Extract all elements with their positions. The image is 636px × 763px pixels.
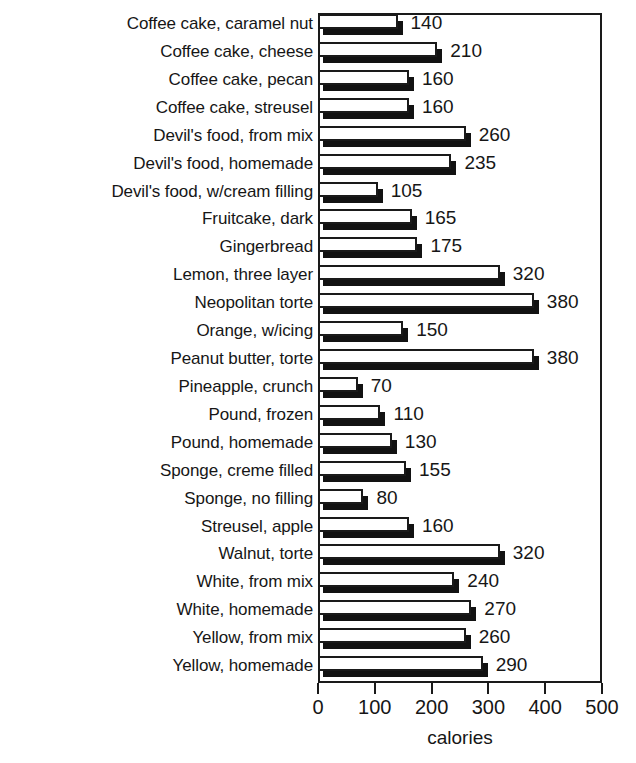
bar [318, 293, 534, 308]
bar-row: 175 [318, 237, 497, 259]
category-label: Sponge, no filling [0, 489, 313, 508]
bar-row: 160 [318, 70, 489, 92]
bar [318, 126, 466, 141]
category-label: Pound, homemade [0, 433, 313, 452]
category-label: Coffee cake, pecan [0, 70, 313, 89]
bar-value-label: 80 [376, 487, 397, 509]
category-label: Pound, frozen [0, 405, 313, 424]
bar-row: 110 [318, 405, 460, 427]
bar-row: 270 [318, 600, 551, 622]
bar-row: 380 [318, 349, 614, 371]
bar-row: 80 [318, 489, 443, 511]
bar-row: 150 [318, 321, 483, 343]
x-axis-tick-label: 300 [472, 695, 505, 719]
category-label: Lemon, three layer [0, 265, 313, 284]
category-label: Devil's food, from mix [0, 126, 313, 145]
bar-value-label: 290 [496, 654, 528, 676]
category-axis-labels: Coffee cake, caramel nutCoffee cake, che… [0, 13, 313, 683]
bar-value-label: 260 [479, 124, 511, 146]
bar [318, 628, 466, 643]
bar-row: 140 [318, 14, 478, 36]
bar-chart: Coffee cake, caramel nutCoffee cake, che… [0, 0, 636, 763]
x-axis: 0100200300400500 [318, 683, 608, 763]
bar [318, 182, 378, 197]
bar-value-label: 110 [393, 403, 423, 425]
category-label: Fruitcake, dark [0, 209, 313, 228]
bar-value-label: 260 [479, 626, 511, 648]
x-axis-tick-label: 500 [585, 695, 618, 719]
bar [318, 70, 409, 85]
bar-row: 260 [318, 126, 546, 148]
bar-value-label: 160 [422, 96, 454, 118]
category-label: White, homemade [0, 600, 313, 619]
bar [318, 14, 398, 29]
bar-value-label: 380 [547, 291, 579, 313]
bar [318, 42, 437, 57]
bar-value-label: 235 [464, 152, 496, 174]
category-label: Coffee cake, cheese [0, 42, 313, 61]
bar [318, 544, 500, 559]
category-label: Gingerbread [0, 237, 313, 256]
bar [318, 600, 471, 615]
bar-value-label: 240 [467, 570, 499, 592]
bar-value-label: 70 [371, 375, 392, 397]
category-label: Coffee cake, caramel nut [0, 14, 313, 33]
bar [318, 572, 454, 587]
category-label: Yellow, from mix [0, 628, 313, 647]
category-label: White, from mix [0, 572, 313, 591]
category-label: Orange, w/icing [0, 321, 313, 340]
bar-value-label: 380 [547, 347, 579, 369]
bar-value-label: 270 [484, 598, 516, 620]
category-label: Streusel, apple [0, 517, 313, 536]
bar-value-label: 165 [425, 207, 457, 229]
category-label: Coffee cake, streusel [0, 98, 313, 117]
bar-row: 290 [318, 656, 563, 678]
bar-row: 130 [318, 433, 472, 455]
bar [318, 237, 417, 252]
bar-row: 70 [318, 377, 438, 399]
bar [318, 405, 380, 420]
bar-row: 160 [318, 517, 489, 539]
x-axis-tick [601, 683, 603, 694]
category-label: Pineapple, crunch [0, 377, 313, 396]
bar [318, 656, 483, 671]
bar-value-label: 130 [405, 431, 437, 453]
bar [318, 265, 500, 280]
bar-row: 165 [318, 209, 492, 231]
bar-row: 380 [318, 293, 614, 315]
category-label: Devil's food, homemade [0, 154, 313, 173]
category-label: Sponge, creme filled [0, 461, 313, 480]
bar-value-label: 320 [513, 263, 545, 285]
bar-value-label: 140 [411, 12, 443, 34]
bar-row: 260 [318, 628, 546, 650]
x-axis-tick-label: 0 [312, 695, 323, 719]
bar [318, 209, 412, 224]
bar-row: 320 [318, 544, 580, 566]
bar-value-label: 155 [419, 459, 451, 481]
bar [318, 489, 363, 504]
bar [318, 349, 534, 364]
x-axis-tick-label: 400 [529, 695, 562, 719]
bar-value-label: 320 [513, 542, 545, 564]
bar [318, 98, 409, 113]
category-label: Neopolitan torte [0, 293, 313, 312]
bar-value-label: 210 [450, 40, 482, 62]
bar-value-label: 105 [391, 180, 423, 202]
x-axis-tick [374, 683, 376, 694]
bar [318, 321, 403, 336]
x-axis-tick-label: 200 [415, 695, 448, 719]
x-axis-tick [544, 683, 546, 694]
bar-value-label: 175 [430, 235, 462, 257]
x-axis-tick [487, 683, 489, 694]
category-label: Yellow, homemade [0, 656, 313, 675]
bar-row: 240 [318, 572, 534, 594]
bar-value-label: 160 [422, 68, 454, 90]
bar [318, 433, 392, 448]
bar-row: 210 [318, 42, 517, 64]
category-label: Peanut butter, torte [0, 349, 313, 368]
bar-row: 160 [318, 98, 489, 120]
bar [318, 377, 358, 392]
bar [318, 461, 406, 476]
bars-layer: 1402101601602602351051651753203801503807… [318, 13, 636, 683]
bar [318, 517, 409, 532]
